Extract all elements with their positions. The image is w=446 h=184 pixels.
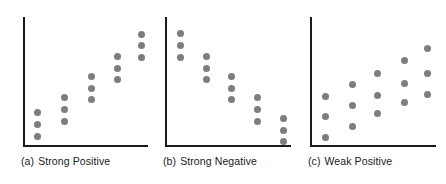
data-point <box>424 45 431 52</box>
data-point <box>401 57 408 64</box>
data-point <box>374 70 381 77</box>
data-point <box>374 110 381 117</box>
data-point <box>424 91 431 98</box>
panel-caption-tag-c: (c) <box>308 155 321 167</box>
data-point <box>349 123 356 130</box>
data-point <box>322 113 329 120</box>
data-point <box>349 102 356 109</box>
panel-caption-label-c: Weak Positive <box>325 155 393 167</box>
data-point <box>322 134 329 141</box>
panel-caption-c: (c)Weak Positive <box>308 155 392 167</box>
scatterplot-figure: (a)Strong Positive(b)Strong Negative(c)W… <box>0 0 446 184</box>
scatter-panel-c: (c)Weak Positive <box>0 0 446 184</box>
data-point <box>401 99 408 106</box>
data-point <box>374 92 381 99</box>
data-point <box>424 70 431 77</box>
data-point <box>401 80 408 87</box>
data-point <box>349 81 356 88</box>
data-point <box>322 93 329 100</box>
